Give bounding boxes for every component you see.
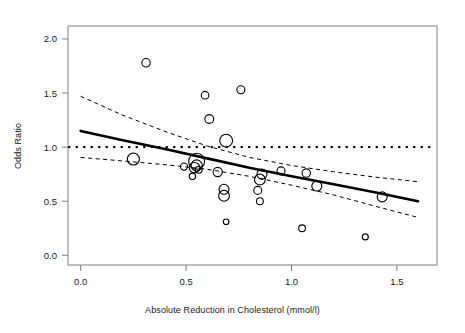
fitted-regression-line <box>81 131 418 201</box>
data-point <box>213 167 222 176</box>
data-point <box>299 225 306 232</box>
data-point <box>189 173 195 179</box>
x-tick-label: 0.5 <box>179 276 192 287</box>
x-axis-title: Absolute Reduction in Cholesterol (mmol/… <box>0 305 465 315</box>
data-point <box>256 198 263 205</box>
chart-figure: 0.00.51.01.5 0.00.51.01.52.0 Absolute Re… <box>0 0 465 333</box>
data-point <box>237 86 245 94</box>
data-point <box>201 91 209 99</box>
data-point <box>219 184 229 194</box>
x-tick-label: 1.5 <box>390 276 403 287</box>
data-point <box>127 153 139 165</box>
y-tick-label: 1.5 <box>44 88 57 99</box>
y-tick-label: 2.0 <box>44 33 57 44</box>
data-point <box>362 234 368 240</box>
data-point <box>223 219 229 225</box>
x-axis-ticks: 0.00.51.01.5 <box>74 265 404 287</box>
data-point <box>219 190 230 201</box>
plot-frame <box>68 26 437 265</box>
x-tick-label: 0.0 <box>74 276 87 287</box>
scatter-plot-svg: 0.00.51.01.5 0.00.51.01.52.0 <box>0 0 465 333</box>
data-point <box>312 181 322 191</box>
y-axis-ticks: 0.00.51.01.52.0 <box>44 33 68 260</box>
data-point <box>254 174 265 185</box>
y-tick-label: 0.5 <box>44 196 57 207</box>
y-axis-title: Odds Ratio <box>13 86 23 206</box>
data-point <box>302 169 310 177</box>
data-point <box>205 115 214 124</box>
data-point <box>254 186 262 194</box>
y-tick-label: 0.0 <box>44 250 57 261</box>
data-point <box>142 59 150 67</box>
data-point <box>220 134 233 147</box>
x-tick-label: 1.0 <box>285 276 298 287</box>
y-tick-label: 1.0 <box>44 142 57 153</box>
